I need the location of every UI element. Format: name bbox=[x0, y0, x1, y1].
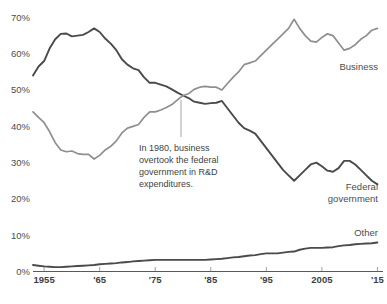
series-labels: FederalgovernmentBusinessOther bbox=[328, 61, 379, 238]
y-axis-tick-label: 70% bbox=[11, 12, 31, 23]
x-axis-tick-label: 2005 bbox=[311, 274, 333, 285]
y-axis-labels: 0%10%20%30%40%50%60%70% bbox=[11, 12, 31, 277]
y-axis-tick-label: 10% bbox=[11, 230, 31, 241]
y-axis-tick-label: 20% bbox=[11, 193, 31, 204]
y-axis-tick-label: 0% bbox=[16, 266, 30, 277]
x-axis-ticks bbox=[44, 267, 377, 272]
y-axis-tick-label: 30% bbox=[11, 157, 31, 168]
series-line-other bbox=[33, 242, 377, 267]
chart-container: 0%10%20%30%40%50%60%70% 1955'65'75'85'95… bbox=[0, 0, 387, 304]
y-axis-tick-label: 40% bbox=[11, 121, 31, 132]
annotation-line: government in R&D bbox=[139, 167, 218, 177]
x-axis-tick-label: '85 bbox=[204, 274, 218, 285]
series-line-business bbox=[33, 19, 377, 159]
line-chart: 0%10%20%30%40%50%60%70% 1955'65'75'85'95… bbox=[0, 0, 387, 304]
y-axis-tick-label: 60% bbox=[11, 48, 31, 59]
x-axis-labels: 1955'65'75'85'952005'15 bbox=[34, 274, 385, 285]
annotation-line: In 1980, business bbox=[139, 143, 210, 153]
x-axis-tick-label: '95 bbox=[260, 274, 274, 285]
x-axis-tick-label: '15 bbox=[371, 274, 385, 285]
x-axis-tick-label: 1955 bbox=[34, 274, 56, 285]
annotation-line: overtook the federal bbox=[139, 155, 219, 165]
x-axis-tick-label: '75 bbox=[149, 274, 163, 285]
annotation-text: In 1980, businessovertook the federalgov… bbox=[139, 143, 219, 189]
annotation-line: expenditures. bbox=[139, 179, 193, 189]
series-label-federal-government: Federal bbox=[346, 181, 378, 192]
y-axis-tick-label: 50% bbox=[11, 84, 31, 95]
x-axis-tick-label: '65 bbox=[93, 274, 107, 285]
series-label-federal-government: government bbox=[328, 193, 379, 204]
series-label-other: Other bbox=[354, 227, 378, 238]
series-label-business: Business bbox=[339, 61, 378, 72]
